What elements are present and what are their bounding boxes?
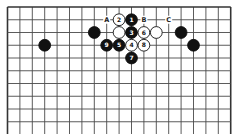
black-stone-circle <box>188 39 200 51</box>
white-stone-8: 8 <box>138 39 150 51</box>
white-stone-circle <box>150 27 162 39</box>
move-number: 6 <box>142 29 146 36</box>
white-stone-6: 6 <box>138 27 150 39</box>
black-stone-5: 5 <box>113 39 125 51</box>
white-stone-2: 2 <box>113 14 125 26</box>
black-stone-circle <box>88 27 100 39</box>
white-stone <box>113 27 125 39</box>
black-stone-circle <box>175 27 187 39</box>
marker-label-a: A <box>104 16 109 24</box>
white-stone-circle <box>113 27 125 39</box>
black-stone-9: 9 <box>101 39 113 51</box>
black-stone-3: 3 <box>126 27 138 39</box>
white-stone-4: 4 <box>126 39 138 51</box>
move-number: 4 <box>129 41 133 48</box>
black-stone-circle <box>39 39 51 51</box>
black-stone-7: 7 <box>126 52 138 64</box>
marker-label-b: B <box>141 16 146 24</box>
move-number: 5 <box>117 41 121 48</box>
go-board: ABC 123456789 <box>0 0 235 134</box>
black-stone <box>175 27 187 39</box>
move-number: 7 <box>129 54 133 61</box>
move-number: 1 <box>129 16 133 23</box>
black-stone-1: 1 <box>126 14 138 26</box>
white-stone <box>150 27 162 39</box>
black-stone <box>39 39 51 51</box>
marker-label-c: C <box>166 16 171 24</box>
move-number: 2 <box>117 16 121 23</box>
move-number: 9 <box>105 41 109 48</box>
black-stone <box>188 39 200 51</box>
move-number: 3 <box>129 29 133 36</box>
move-number: 8 <box>142 41 146 48</box>
black-stone <box>88 27 100 39</box>
